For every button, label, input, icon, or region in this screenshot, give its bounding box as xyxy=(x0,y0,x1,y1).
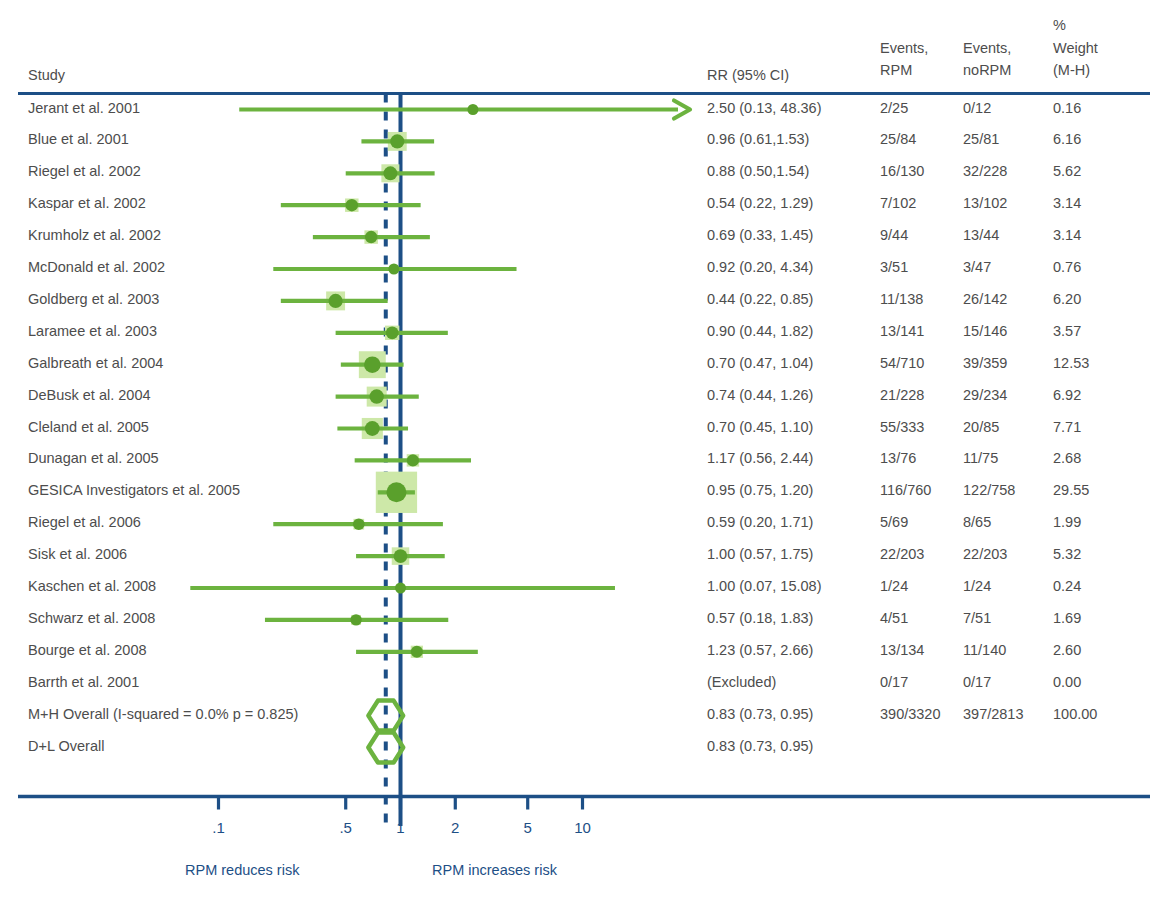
point-estimate-marker xyxy=(364,356,381,373)
row-study-label: Schwarz et al. 2008 xyxy=(28,610,155,626)
axis-tick-label: 10 xyxy=(561,819,605,836)
row-study-label: Barrth et al. 2001 xyxy=(28,674,139,690)
row-study-label: Bourge et al. 2008 xyxy=(28,642,147,658)
column-header-weight-line2: Weight xyxy=(1053,40,1098,56)
row-weight: 7.71 xyxy=(1053,419,1081,435)
row-study-label: Laramee et al. 2003 xyxy=(28,323,157,339)
row-rr-value: (Excluded) xyxy=(707,674,776,690)
row-events-norpm: 3/47 xyxy=(963,259,991,275)
row-weight: 3.14 xyxy=(1053,195,1081,211)
point-estimate-marker xyxy=(350,614,361,625)
row-events-rpm: 5/69 xyxy=(880,514,908,530)
column-header-events-norpm-line1: Events, xyxy=(963,40,1011,56)
row-rr-value: 0.59 (0.20, 1.71) xyxy=(707,514,813,530)
row-weight: 1.69 xyxy=(1053,610,1081,626)
row-events-norpm: 29/234 xyxy=(963,387,1007,403)
row-study-label: Jerant et al. 2001 xyxy=(28,100,140,116)
axis-tick-label: .1 xyxy=(197,819,241,836)
row-events-norpm: 20/85 xyxy=(963,419,999,435)
row-rr-value: 0.83 (0.73, 0.95) xyxy=(707,738,813,754)
column-header-events-rpm-line2: RPM xyxy=(880,62,912,78)
row-study-label: Cleland et al. 2005 xyxy=(28,419,149,435)
row-events-norpm: 15/146 xyxy=(963,323,1007,339)
point-estimate-marker xyxy=(394,549,408,563)
row-rr-value: 0.69 (0.33, 1.45) xyxy=(707,227,813,243)
row-events-rpm: 390/3320 xyxy=(880,706,940,722)
row-events-norpm: 122/758 xyxy=(963,482,1015,498)
row-events-norpm: 22/203 xyxy=(963,546,1007,562)
row-rr-value: 0.92 (0.20, 4.34) xyxy=(707,259,813,275)
row-events-rpm: 21/228 xyxy=(880,387,924,403)
row-events-rpm: 25/84 xyxy=(880,131,916,147)
row-rr-value: 0.57 (0.18, 1.83) xyxy=(707,610,813,626)
row-weight: 5.62 xyxy=(1053,163,1081,179)
row-events-rpm: 13/141 xyxy=(880,323,924,339)
row-events-rpm: 13/134 xyxy=(880,642,924,658)
row-study-label: M+H Overall (I-squared = 0.0% p = 0.825) xyxy=(28,706,298,722)
row-study-label: GESICA Investigators et al. 2005 xyxy=(28,482,240,498)
row-events-norpm: 1/24 xyxy=(963,578,991,594)
row-events-rpm: 16/130 xyxy=(880,163,924,179)
point-estimate-marker xyxy=(395,583,406,594)
row-events-rpm: 2/25 xyxy=(880,100,908,116)
row-study-label: DeBusk et al. 2004 xyxy=(28,387,151,403)
point-estimate-marker xyxy=(383,166,397,180)
axis-tick-label: 5 xyxy=(506,819,550,836)
row-weight: 3.14 xyxy=(1053,227,1081,243)
row-rr-value: 1.00 (0.07, 15.08) xyxy=(707,578,821,594)
row-events-rpm: 7/102 xyxy=(880,195,916,211)
row-events-rpm: 22/203 xyxy=(880,546,924,562)
row-rr-value: 0.44 (0.22, 0.85) xyxy=(707,291,813,307)
row-weight: 5.32 xyxy=(1053,546,1081,562)
row-events-rpm: 4/51 xyxy=(880,610,908,626)
row-weight: 2.68 xyxy=(1053,450,1081,466)
row-rr-value: 1.17 (0.56, 2.44) xyxy=(707,450,813,466)
row-events-norpm: 13/44 xyxy=(963,227,999,243)
row-events-rpm: 54/710 xyxy=(880,355,924,371)
row-rr-value: 0.70 (0.45, 1.10) xyxy=(707,419,813,435)
row-events-norpm: 0/12 xyxy=(963,100,991,116)
axis-note-right: RPM increases risk xyxy=(432,862,557,878)
column-header-events-norpm-line2: noRPM xyxy=(963,62,1011,78)
row-events-rpm: 13/76 xyxy=(880,450,916,466)
row-rr-value: 0.88 (0.50,1.54) xyxy=(707,163,809,179)
row-study-label: Galbreath et al. 2004 xyxy=(28,355,163,371)
row-study-label: Blue et al. 2001 xyxy=(28,131,129,147)
row-rr-value: 0.96 (0.61,1.53) xyxy=(707,131,809,147)
row-study-label: McDonald et al. 2002 xyxy=(28,259,165,275)
row-study-label: Kaspar et al. 2002 xyxy=(28,195,146,211)
row-events-rpm: 116/760 xyxy=(880,482,931,498)
row-rr-value: 0.83 (0.73, 0.95) xyxy=(707,706,813,722)
point-estimate-marker xyxy=(369,389,383,403)
row-study-label: Riegel et al. 2002 xyxy=(28,163,141,179)
row-events-rpm: 11/138 xyxy=(880,291,923,307)
column-header-weight-line1: % xyxy=(1053,17,1066,33)
row-events-norpm: 0/17 xyxy=(963,674,991,690)
row-weight: 12.53 xyxy=(1053,355,1089,371)
row-weight: 0.24 xyxy=(1053,578,1081,594)
point-estimate-marker xyxy=(386,482,406,502)
row-weight: 0.00 xyxy=(1053,674,1081,690)
row-rr-value: 0.70 (0.47, 1.04) xyxy=(707,355,813,371)
row-events-norpm: 11/75 xyxy=(963,450,998,466)
row-events-norpm: 8/65 xyxy=(963,514,991,530)
row-study-label: Kaschen et al. 2008 xyxy=(28,578,156,594)
point-estimate-marker xyxy=(365,421,380,436)
row-events-norpm: 11/140 xyxy=(963,642,1006,658)
row-weight: 1.99 xyxy=(1053,514,1081,530)
row-weight: 6.16 xyxy=(1053,131,1081,147)
column-header-events-rpm-line1: Events, xyxy=(880,40,928,56)
row-rr-value: 2.50 (0.13, 48.36) xyxy=(707,100,821,116)
row-study-label: Sisk et al. 2006 xyxy=(28,546,127,562)
row-rr-value: 0.74 (0.44, 1.26) xyxy=(707,387,813,403)
row-rr-value: 1.00 (0.57, 1.75) xyxy=(707,546,813,562)
axis-tick-label: 1 xyxy=(379,819,423,836)
row-events-rpm: 1/24 xyxy=(880,578,908,594)
row-weight: 6.20 xyxy=(1053,291,1081,307)
row-rr-value: 0.90 (0.44, 1.82) xyxy=(707,323,813,339)
point-estimate-marker xyxy=(411,646,423,658)
row-study-label: Krumholz et al. 2002 xyxy=(28,227,161,243)
row-rr-value: 1.23 (0.57, 2.66) xyxy=(707,642,813,658)
row-weight: 2.60 xyxy=(1053,642,1081,658)
axis-tick-label: 2 xyxy=(433,819,477,836)
